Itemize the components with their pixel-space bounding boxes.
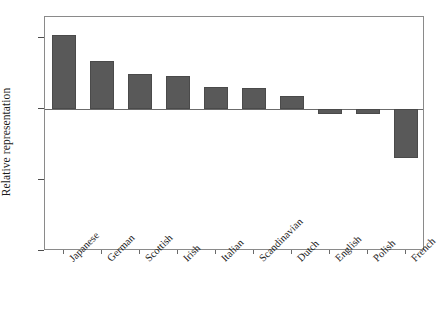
bar	[242, 88, 266, 108]
bar	[52, 35, 76, 109]
bar	[204, 87, 228, 109]
x-axis-tick-mark	[329, 250, 330, 254]
bar	[394, 109, 418, 158]
bar-chart-figure: Relative representation 2.01.00.50.25 Ja…	[0, 0, 439, 322]
x-axis-tick-mark	[177, 250, 178, 254]
x-axis-tick-mark	[291, 250, 292, 254]
y-axis-title: Relative representation	[0, 25, 18, 259]
bar	[166, 76, 190, 109]
x-axis-tick-mark	[63, 250, 64, 254]
plot-area	[44, 16, 424, 250]
x-axis-tick-mark	[405, 250, 406, 254]
bar	[90, 61, 114, 109]
x-axis-tick-mark	[367, 250, 368, 254]
x-axis-tick-mark	[139, 250, 140, 254]
bar	[128, 74, 152, 108]
x-axis-tick-mark	[101, 250, 102, 254]
bar	[280, 96, 304, 109]
y-axis-tick-mark	[38, 250, 44, 251]
x-axis-tick-mark	[215, 250, 216, 254]
bar	[356, 109, 380, 114]
x-axis-tick-mark	[253, 250, 254, 254]
bar	[318, 109, 342, 114]
